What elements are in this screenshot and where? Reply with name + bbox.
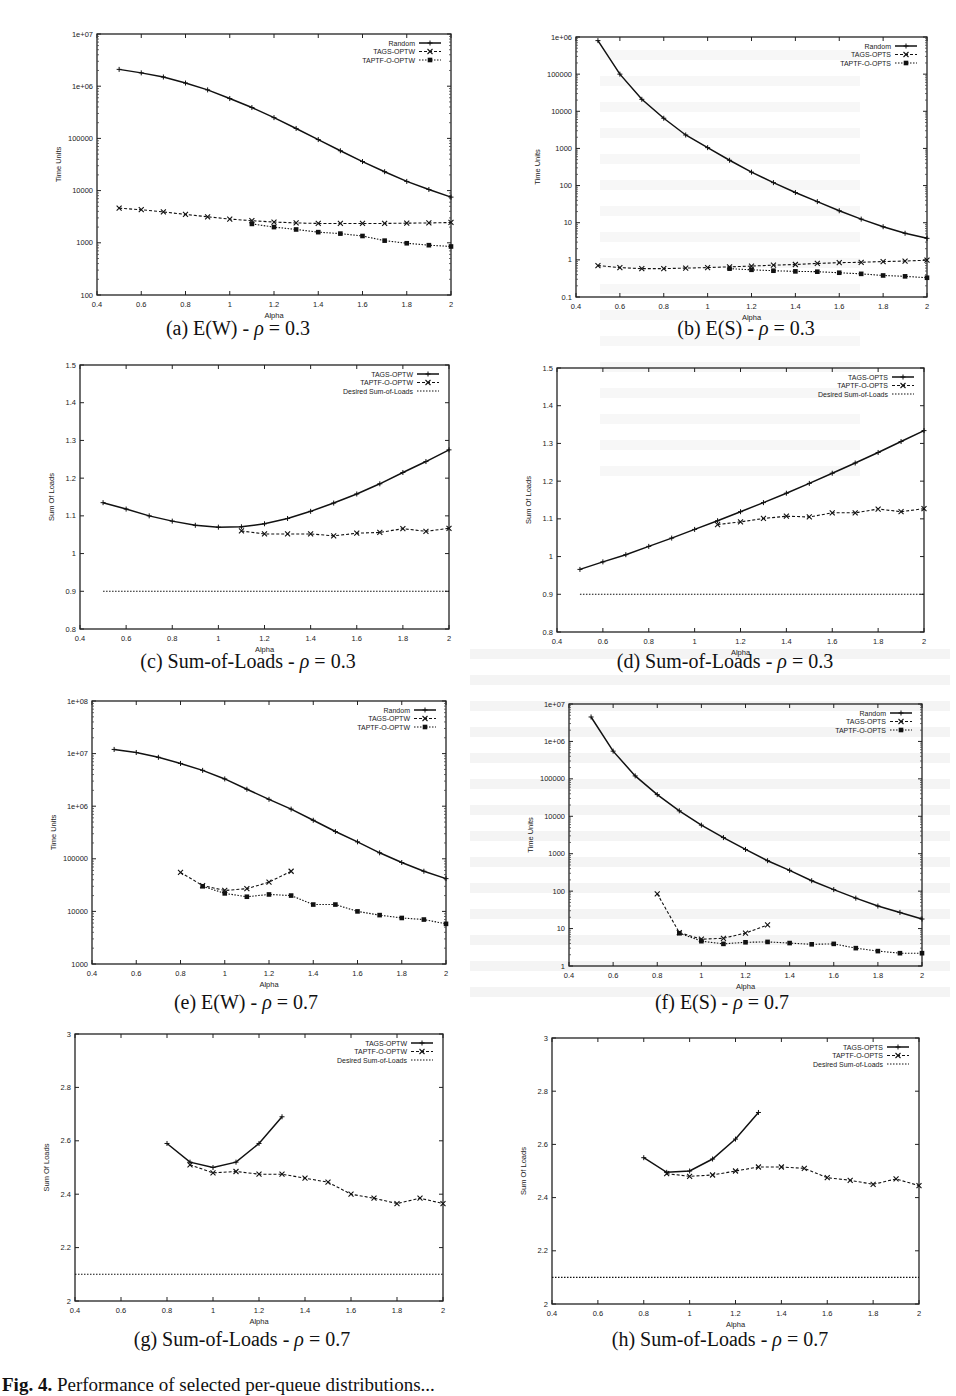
y-tick-label: 3 <box>544 1034 548 1043</box>
series-tags-opts <box>641 1110 761 1175</box>
figure-caption-prefix: Fig. 4. <box>2 1374 52 1395</box>
y-tick-label: 2.6 <box>538 1140 548 1149</box>
y-tick-label: 2.4 <box>538 1193 548 1202</box>
panel-caption-h: (h) Sum-of-Loads - ρ = 0.7 <box>612 1328 828 1351</box>
figure-caption: Fig. 4. Performance of selected per-queu… <box>2 1374 435 1396</box>
panel-caption-value: = 0.7 <box>782 1328 828 1350</box>
legend-label: Desired Sum-of-Loads <box>813 1061 884 1068</box>
y-tick-label: 2.8 <box>538 1087 548 1096</box>
rho-symbol: ρ <box>772 1328 782 1350</box>
x-tick-label: 0.4 <box>547 1309 557 1318</box>
figure-caption-text: Performance of selected per-queue distri… <box>57 1374 435 1395</box>
series-taptf-o-opts <box>664 1165 921 1189</box>
legend-label: TAGS-OPTS <box>843 1044 883 1051</box>
legend-label: TAPTF-O-OPTS <box>832 1052 883 1059</box>
x-tick-label: 1.6 <box>822 1309 832 1318</box>
x-tick-label: 1.8 <box>868 1309 878 1318</box>
plot-area: 0.40.60.811.21.41.61.8222.22.42.62.83Alp… <box>519 1034 922 1330</box>
x-tick-label: 1.4 <box>776 1309 786 1318</box>
y-tick-label: 2 <box>544 1300 548 1309</box>
y-axis-label: Sum Of Loads <box>519 1147 528 1195</box>
x-tick-label: 2 <box>917 1309 921 1318</box>
x-tick-label: 0.6 <box>593 1309 603 1318</box>
x-tick-label: 1 <box>688 1309 692 1318</box>
x-tick-label: 0.8 <box>639 1309 649 1318</box>
x-tick-label: 1.2 <box>730 1309 740 1318</box>
y-tick-label: 2.2 <box>538 1246 548 1255</box>
legend: TAGS-OPTSTAPTF-O-OPTSDesired Sum-of-Load… <box>813 1044 909 1068</box>
panel-caption-label: (h) Sum-of-Loads - <box>612 1328 773 1350</box>
